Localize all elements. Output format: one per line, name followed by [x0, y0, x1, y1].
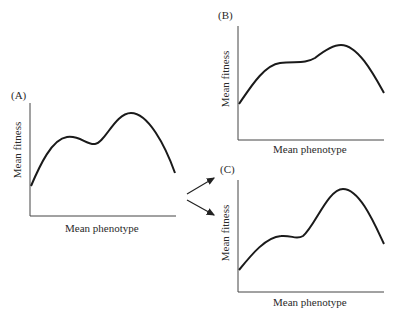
arrow-a-to-c	[187, 200, 214, 215]
panel-c-fitness-curve	[239, 189, 384, 270]
panel-a-label: (A)	[11, 89, 26, 101]
panel-c-plot	[238, 180, 384, 292]
arrow-a-to-b	[187, 178, 214, 194]
panel-a-y-axis-label: Mean fitness	[11, 115, 23, 185]
panel-b-fitness-curve	[239, 45, 384, 104]
panel-b-plot	[238, 26, 384, 140]
panel-c-x-axis-label: Mean phenotype	[273, 296, 347, 308]
diagram-canvas	[0, 0, 397, 321]
panel-b-y-axis-label: Mean fitness	[219, 44, 231, 114]
panel-c-label: (C)	[220, 163, 235, 175]
panel-b-x-axis-label: Mean phenotype	[273, 143, 347, 155]
panel-b-label: (B)	[218, 9, 233, 21]
panel-a-plot	[30, 103, 176, 216]
panel-a-x-axis-label: Mean phenotype	[65, 222, 139, 234]
panel-c-y-axis-label: Mean fitness	[219, 198, 231, 268]
panel-a-fitness-curve	[31, 113, 175, 186]
